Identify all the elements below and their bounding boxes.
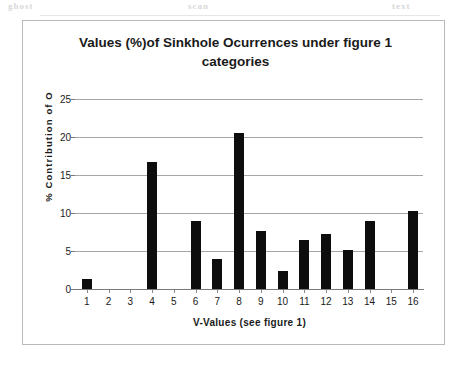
bar [191,221,201,289]
bar [343,250,353,289]
bar-slot [207,99,229,289]
x-axis-tick-label: 16 [402,296,424,310]
x-axis-tick-mark [370,290,371,293]
bar-slot [294,99,316,289]
x-axis-tick-mark [152,290,153,293]
x-axis-tick-mark [326,290,327,293]
x-axis-tick-label: 9 [250,296,272,310]
x-tick-slot [120,290,142,294]
bar [278,271,288,289]
x-axis-tick-label: 11 [294,296,316,310]
scan-ghost-text-right: text [392,1,411,11]
x-tick-slot [359,290,381,294]
bar [82,279,92,289]
x-tick-slot [272,290,294,294]
y-axis-tick-mark [71,213,75,214]
y-axis-tick-mark [71,99,75,100]
x-axis-tick-mark [87,290,88,293]
x-axis-tick-marks [76,290,424,294]
bar [321,234,331,289]
y-axis-tick-mark [71,175,75,176]
x-axis-tick-mark [304,290,305,293]
bar-slot [250,99,272,289]
x-axis-tick-mark [130,290,131,293]
x-tick-slot [228,290,250,294]
x-tick-slot [76,290,98,294]
x-axis-tick-label: 5 [163,296,185,310]
x-tick-slot [207,290,229,294]
bar-slot [76,99,98,289]
bar-slot [98,99,120,289]
bar-slot [185,99,207,289]
y-axis-tick-mark [71,251,75,252]
chart-frame: Values (%)of Sinkhole Ocurrences under f… [22,20,445,345]
bar [147,162,157,289]
bar [212,259,222,289]
bar [365,221,375,289]
scan-ghost-text-left: ghost [8,1,34,11]
x-axis-tick-mark [196,290,197,293]
x-axis-tick-mark [391,290,392,293]
x-axis-tick-label: 7 [207,296,229,310]
x-tick-slot [315,290,337,294]
bar [234,133,244,289]
y-axis-tick-mark [71,289,75,290]
x-axis-tick-label: 13 [337,296,359,310]
x-axis-tick-mark [239,290,240,293]
x-axis-tick-mark [348,290,349,293]
bar-slot [315,99,337,289]
x-axis-tick-label: 14 [359,296,381,310]
y-axis-tick-mark [71,137,75,138]
x-tick-slot [402,290,424,294]
y-axis-tick-label: 5 [47,246,71,257]
y-axis-tick-label: 0 [47,284,71,295]
bar [256,231,266,289]
bar-slot [359,99,381,289]
bar-slot [228,99,250,289]
chart-title: Values (%)of Sinkhole Ocurrences under f… [53,33,418,71]
y-axis-title: % Contribution of O [43,62,54,232]
x-tick-slot [250,290,272,294]
x-axis-tick-labels: 12345678910111213141516 [76,296,424,310]
x-axis-tick-label: 6 [185,296,207,310]
x-tick-slot [141,290,163,294]
x-axis-tick-mark [283,290,284,293]
x-axis-tick-label: 12 [315,296,337,310]
bar-slot [163,99,185,289]
x-axis-title: V-Values (see figure 1) [75,317,424,328]
bar-slot [120,99,142,289]
bar [408,211,418,289]
x-tick-slot [294,290,316,294]
bar-slot [402,99,424,289]
x-axis-tick-label: 2 [98,296,120,310]
x-tick-slot [98,290,120,294]
x-axis-tick-label: 3 [120,296,142,310]
x-axis-tick-label: 10 [272,296,294,310]
bar-slot [381,99,403,289]
x-axis-tick-label: 4 [141,296,163,310]
bar-slot [272,99,294,289]
scan-hairline [40,15,440,16]
x-tick-slot [185,290,207,294]
x-axis-tick-label: 1 [76,296,98,310]
scan-artifacts: ghost scan text [0,0,469,20]
bar-series [76,99,424,289]
bar-slot [141,99,163,289]
x-axis-tick-mark [261,290,262,293]
bar [299,240,309,289]
x-axis-tick-label: 8 [228,296,250,310]
bar-slot [337,99,359,289]
x-tick-slot [381,290,403,294]
x-axis-tick-mark [217,290,218,293]
x-tick-slot [337,290,359,294]
x-axis-tick-mark [413,290,414,293]
x-axis-tick-mark [174,290,175,293]
x-axis-tick-label: 15 [381,296,403,310]
x-axis-tick-mark [109,290,110,293]
scan-ghost-text-center: scan [188,1,209,11]
x-tick-slot [163,290,185,294]
